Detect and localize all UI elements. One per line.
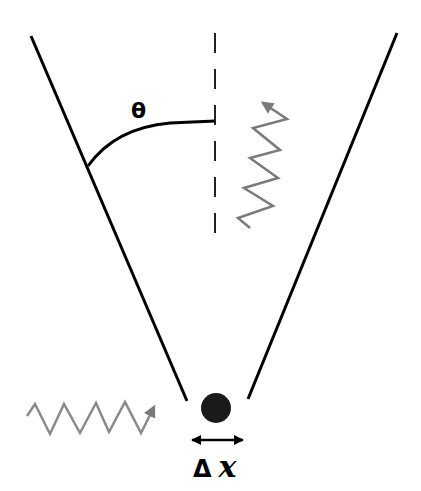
cone-right-edge — [248, 33, 397, 399]
x-variable: x — [218, 449, 238, 484]
heisenberg-microscope-diagram: θ Δ x — [0, 0, 421, 491]
angle-arc — [88, 121, 215, 166]
uncertainty-label: Δ x — [193, 449, 238, 484]
particle — [201, 393, 231, 423]
delta-symbol: Δ — [193, 455, 212, 483]
scattered-photon-wave — [238, 103, 287, 228]
angle-label: θ — [131, 98, 146, 123]
incident-photon-wave — [27, 402, 154, 434]
cone-left-edge — [31, 36, 187, 401]
